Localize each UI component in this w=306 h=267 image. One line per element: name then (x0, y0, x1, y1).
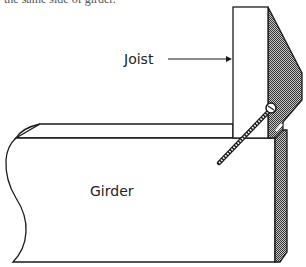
girder (6, 124, 287, 262)
girder-front-face (6, 138, 275, 262)
girder-side-face (275, 130, 287, 262)
girder-label: Girder (90, 183, 134, 199)
joist-label: Joist (123, 51, 154, 67)
hanger-bracket (268, 7, 302, 138)
girder-top-face (16, 124, 233, 138)
arrow-head-icon (226, 56, 232, 62)
joist-girder-diagram: Joist Girder (0, 0, 306, 267)
